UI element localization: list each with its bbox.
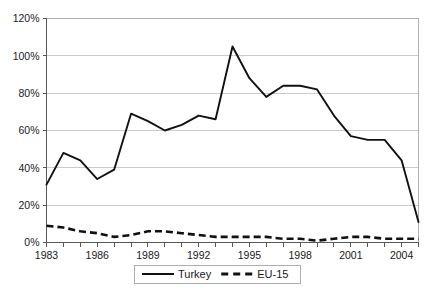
x-tick-label: 1986 xyxy=(86,249,110,261)
y-tick-label: 40% xyxy=(18,162,39,174)
chart-legend: TurkeyEU-15 xyxy=(134,265,300,283)
y-tick-label: 0% xyxy=(24,236,39,248)
x-tick-label: 1992 xyxy=(187,249,211,261)
x-tick-label: 2001 xyxy=(339,249,363,261)
chart-background xyxy=(0,0,436,294)
x-tick-label: 1995 xyxy=(238,249,262,261)
y-tick-label: 120% xyxy=(13,12,40,24)
x-tick-label: 1983 xyxy=(35,249,59,261)
legend-label-eu-15: EU-15 xyxy=(257,268,288,280)
x-tick-label: 2004 xyxy=(390,249,414,261)
y-tick-label: 60% xyxy=(18,124,39,136)
y-tick-label: 100% xyxy=(13,50,40,62)
x-tick-label: 1989 xyxy=(136,249,160,261)
y-tick-label: 80% xyxy=(18,87,39,99)
line-chart: 0%20%40%60%80%100%120% 19831986198919921… xyxy=(0,0,436,294)
legend-label-turkey: Turkey xyxy=(178,268,212,280)
x-tick-label: 1998 xyxy=(288,249,312,261)
y-tick-label: 20% xyxy=(18,199,39,211)
chart-container: 0%20%40%60%80%100%120% 19831986198919921… xyxy=(0,0,436,294)
